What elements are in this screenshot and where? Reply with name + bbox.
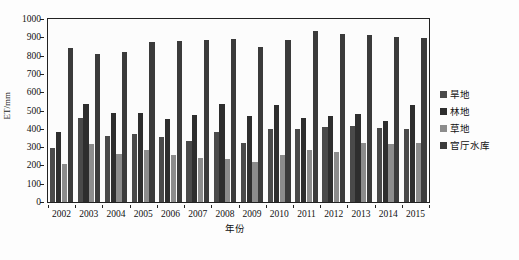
y-tick-label: 1000: [22, 14, 41, 24]
x-tick-label: 2013: [351, 209, 370, 219]
bar-2012-1: [328, 116, 333, 202]
x-tick-mark: [184, 205, 185, 208]
y-tick-mark: [40, 147, 44, 148]
x-tick-label: 2015: [406, 209, 425, 219]
bar-2012-3: [340, 34, 345, 202]
bar-2014-2: [388, 144, 393, 202]
et-bar-chart: ET/mm 01002003004005006007008009001000 2…: [0, 0, 519, 260]
bar-2002-0: [50, 148, 55, 202]
bar-2009-0: [241, 143, 246, 202]
bar-2005-1: [138, 113, 143, 202]
bar-2005-0: [132, 134, 137, 202]
legend-label: 官厅水库: [450, 138, 490, 152]
bar-2015-3: [421, 38, 426, 202]
bar-2009-2: [252, 162, 257, 202]
bar-2006-1: [165, 119, 170, 202]
legend-label: 草地: [450, 121, 470, 135]
legend-item-0[interactable]: 旱地: [440, 86, 518, 102]
y-tick-label: 200: [27, 160, 41, 170]
bar-2010-1: [274, 105, 279, 202]
x-tick-label: 2014: [379, 209, 398, 219]
bar-2010-2: [280, 155, 285, 202]
bar-2004-0: [105, 136, 110, 202]
bar-2011-3: [313, 31, 318, 202]
bar-2007-3: [204, 40, 209, 202]
x-axis-ticks: 2002200320042005200620072008200920102011…: [47, 205, 430, 221]
legend-item-2[interactable]: 草地: [440, 120, 518, 136]
x-tick-label: 2009: [243, 209, 262, 219]
legend-item-3[interactable]: 官厅水库: [440, 137, 518, 153]
x-tick-mark: [130, 205, 131, 208]
bar-2013-1: [355, 114, 360, 202]
y-tick-mark: [40, 111, 44, 112]
bar-2008-3: [231, 39, 236, 202]
bar-2007-1: [192, 115, 197, 202]
bar-2011-1: [301, 118, 306, 202]
x-tick-label: 2010: [270, 209, 289, 219]
bar-2003-3: [95, 54, 100, 202]
y-tick-mark: [40, 165, 44, 166]
x-tick-mark: [375, 205, 376, 208]
bar-2007-2: [198, 158, 203, 202]
bar-2007-0: [186, 141, 191, 202]
x-tick-mark: [239, 205, 240, 208]
x-axis-title: 年份: [0, 221, 470, 235]
y-tick-label: 500: [27, 106, 41, 116]
bar-2013-2: [361, 143, 366, 202]
bar-2012-2: [334, 152, 339, 202]
plot-area: [47, 18, 430, 203]
bar-2008-0: [214, 132, 219, 202]
bar-2004-3: [122, 52, 127, 202]
y-tick-mark: [40, 19, 44, 20]
bar-2004-1: [111, 113, 116, 202]
y-tick-label: 900: [27, 32, 41, 42]
x-tick-label: 2006: [161, 209, 180, 219]
bar-2003-1: [83, 104, 88, 202]
legend-swatch-icon: [440, 91, 447, 98]
y-tick-mark: [40, 74, 44, 75]
legend-swatch-icon: [440, 142, 447, 149]
bar-2015-1: [410, 105, 415, 202]
bar-2009-1: [247, 116, 252, 202]
y-tick-label: 400: [27, 124, 41, 134]
x-tick-mark: [347, 205, 348, 208]
y-tick-mark: [40, 184, 44, 185]
x-tick-label: 2003: [79, 209, 98, 219]
x-tick-mark: [211, 205, 212, 208]
bar-2004-2: [116, 154, 121, 202]
bar-2003-2: [89, 144, 94, 202]
y-tick-label: 700: [27, 69, 41, 79]
bar-2010-0: [268, 129, 273, 202]
x-tick-mark: [75, 205, 76, 208]
x-tick-label: 2007: [188, 209, 207, 219]
legend-swatch-icon: [440, 108, 447, 115]
bar-2008-1: [219, 104, 224, 202]
bar-2014-3: [394, 37, 399, 202]
x-tick-mark: [48, 205, 49, 208]
y-tick-mark: [40, 92, 44, 93]
bar-2013-0: [350, 126, 355, 202]
x-tick-mark: [429, 205, 430, 208]
y-tick-mark: [40, 129, 44, 130]
x-tick-mark: [402, 205, 403, 208]
legend-swatch-icon: [440, 125, 447, 132]
y-tick-mark: [40, 202, 44, 203]
bar-2014-0: [377, 128, 382, 202]
bar-2014-1: [383, 121, 388, 202]
bar-2002-1: [56, 132, 61, 202]
y-tick-label: 800: [27, 51, 41, 61]
bar-2015-0: [404, 129, 409, 202]
y-tick-mark: [40, 56, 44, 57]
bar-2011-2: [307, 150, 312, 202]
x-tick-mark: [266, 205, 267, 208]
y-tick-label: 300: [27, 142, 41, 152]
x-tick-mark: [320, 205, 321, 208]
x-tick-label: 2012: [324, 209, 343, 219]
y-axis-ticks: 01002003004005006007008009001000: [6, 12, 44, 209]
y-tick-label: 100: [27, 179, 41, 189]
x-tick-label: 2011: [297, 209, 316, 219]
bar-2006-3: [177, 41, 182, 202]
bar-2013-3: [367, 35, 372, 202]
bar-2006-2: [171, 155, 176, 202]
legend-item-1[interactable]: 林地: [440, 103, 518, 119]
